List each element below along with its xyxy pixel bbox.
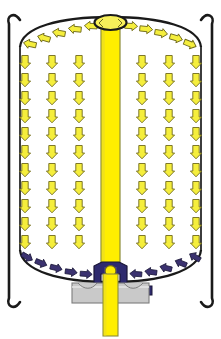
outlet-stem	[103, 274, 118, 336]
center-column	[101, 20, 120, 268]
top-hub	[95, 15, 127, 30]
diagram-canvas	[0, 0, 221, 339]
vessel-flow-diagram	[0, 0, 221, 339]
